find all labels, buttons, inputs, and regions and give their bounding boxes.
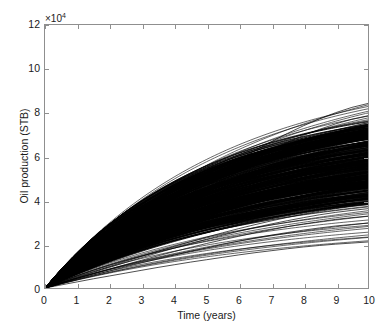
y-axis-exponent-base: ×10 <box>45 13 62 24</box>
plot-area <box>44 24 369 289</box>
x-axis-tick-mark <box>110 25 111 29</box>
x-axis-tick-mark <box>143 284 144 288</box>
x-axis-tick-mark <box>305 284 306 288</box>
x-axis-tick-label: 7 <box>260 295 284 305</box>
x-axis-tick-mark <box>175 25 176 29</box>
x-axis-tick-mark <box>45 284 46 288</box>
y-axis-tick-mark <box>45 202 49 203</box>
y-axis-tick-mark <box>364 25 368 26</box>
x-axis-tick-label: 4 <box>162 295 186 305</box>
x-axis-tick-mark <box>45 25 46 29</box>
y-axis-tick-label: 10 <box>12 63 40 73</box>
oil-production-chart-figure: ×104 024681012 Time (years) Oil producti… <box>0 0 388 328</box>
y-axis-tick-mark <box>364 113 368 114</box>
x-axis-tick-mark <box>240 25 241 29</box>
x-axis-tick-mark <box>240 284 241 288</box>
x-axis-tick-mark <box>208 284 209 288</box>
y-axis-tick-label: 2 <box>12 240 40 250</box>
x-axis-tick-mark <box>110 284 111 288</box>
y-axis-tick-label: 0 <box>12 284 40 294</box>
y-axis-tick-mark <box>45 158 49 159</box>
x-axis-tick-label: 1 <box>65 295 89 305</box>
x-axis-tick-mark <box>338 284 339 288</box>
y-axis-exponent-power: 4 <box>62 12 66 19</box>
x-axis-tick-label: 2 <box>97 295 121 305</box>
x-axis-tick-mark <box>78 25 79 29</box>
x-axis-tick-mark <box>273 284 274 288</box>
y-axis-title: Oil production (STB) <box>18 76 30 236</box>
y-axis-tick-mark <box>364 69 368 70</box>
x-axis-tick-label: 5 <box>195 295 219 305</box>
x-axis-tick-label: 0 <box>32 295 56 305</box>
x-axis-tick-label: 8 <box>292 295 316 305</box>
y-axis-tick-mark <box>364 202 368 203</box>
y-axis-tick-mark <box>45 246 49 247</box>
x-axis-tick-label: 3 <box>130 295 154 305</box>
x-axis-tick-mark <box>175 284 176 288</box>
y-axis-tick-mark <box>45 113 49 114</box>
y-axis-tick-mark <box>364 246 368 247</box>
x-axis-tick-label: 6 <box>227 295 251 305</box>
x-axis-tick-label: 10 <box>357 295 381 305</box>
x-axis-tick-mark <box>305 25 306 29</box>
x-axis-tick-label: 9 <box>325 295 349 305</box>
curve-ensemble <box>45 25 368 288</box>
x-axis-tick-mark <box>273 25 274 29</box>
y-axis-tick-mark <box>364 158 368 159</box>
ensemble-curves <box>45 105 368 288</box>
x-axis-tick-mark <box>338 25 339 29</box>
x-axis-tick-mark <box>78 284 79 288</box>
x-axis-title: Time (years) <box>44 309 369 321</box>
y-axis-tick-label: 12 <box>12 19 40 29</box>
x-axis-tick-mark <box>208 25 209 29</box>
y-axis-tick-mark <box>45 69 49 70</box>
x-axis-tick-mark <box>143 25 144 29</box>
